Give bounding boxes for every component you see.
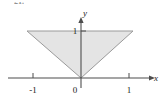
x-tick-label-one: 1	[127, 85, 132, 95]
y-tick-label-one: 1	[73, 26, 78, 36]
triangle-region	[27, 31, 133, 78]
y-axis-label: y	[82, 8, 87, 18]
x-tick-label-minus-one: -1	[29, 85, 37, 95]
coordinate-plot: -1 1 0 1 x y	[0, 0, 164, 102]
origin-label: 0	[73, 85, 78, 95]
figure-container: 21. -1 1 0 1 x y	[0, 0, 164, 102]
x-axis-label: x	[153, 73, 158, 83]
